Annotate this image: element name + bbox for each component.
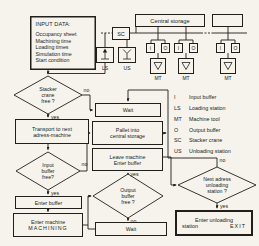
legend-desc: Input buffer — [189, 94, 216, 100]
legend-row: O Output buffer — [174, 126, 255, 137]
machine-tool-box — [178, 58, 194, 74]
input-data-box: INPUT DATA: Occupancy sheet Machining ti… — [30, 16, 96, 70]
legend: I Input buffer LS Loading station MT Mac… — [174, 94, 255, 159]
process-line: Enter buffer — [35, 199, 63, 205]
legend-desc: Output buffer — [189, 126, 220, 132]
legend-abbr: US — [174, 148, 189, 154]
loading-station-tag: LS — [96, 65, 114, 71]
legend-row: MT Machine tool — [174, 116, 255, 127]
output-buffer-box: O — [231, 43, 240, 53]
process-line: Wait — [126, 226, 136, 232]
decision-line: station ? — [190, 188, 244, 194]
process-transport-box: Transport to next adress-machine — [15, 119, 89, 144]
legend-abbr: I — [174, 94, 189, 100]
process-line: station EXIT — [177, 223, 251, 229]
label-yes-input-buffer: yes — [51, 191, 59, 196]
process-enter-buffer-box: Enter buffer — [15, 196, 82, 209]
stacker-crane-label: SC — [117, 30, 125, 36]
label-no-stacker: no — [84, 88, 90, 93]
output-buffer-box: O — [161, 43, 170, 53]
central-storage-box: Central storage — [135, 14, 205, 27]
label-no-output-buffer: no — [131, 219, 137, 224]
label-no-input-buffer: no — [82, 162, 88, 167]
stacker-crane-box: SC — [112, 27, 130, 40]
input-buffer-label: I — [178, 45, 179, 51]
machine-tool-tag: MT — [178, 75, 194, 81]
legend-desc: Loading station — [189, 105, 226, 111]
machine-tool-tag: MT — [220, 75, 236, 81]
label-yes-output-buffer: yes — [131, 172, 139, 177]
central-storage-continued-box — [212, 14, 243, 27]
flowchart-diagram: Central storage SC LS US I O MT I O MT I… — [0, 0, 259, 246]
legend-desc: Machine tool — [189, 116, 220, 122]
process-enter-unloading-exit-box: Enter unloading station EXIT — [175, 210, 253, 236]
legend-desc: Stacker crane — [189, 137, 222, 143]
legend-row: SC Stacker crane — [174, 137, 255, 148]
exit-station-label: station — [182, 223, 198, 229]
legend-desc: Unloading station — [189, 148, 231, 154]
process-line: MACHINING — [28, 225, 67, 231]
legend-abbr: SC — [174, 137, 189, 143]
decision-input-buffer-text: Input buffer free? — [26, 163, 70, 180]
machine-tool-box — [220, 58, 236, 74]
output-buffer-box: O — [189, 43, 198, 53]
label-yes-next-adress: yes — [220, 204, 228, 209]
legend-row: US Unloading station — [174, 148, 255, 159]
unloading-station-box — [118, 47, 136, 63]
decision-line: free ? — [106, 199, 150, 205]
decision-line: free? — [26, 174, 70, 180]
output-buffer-label: O — [234, 45, 238, 51]
legend-abbr: LS — [174, 105, 189, 111]
process-wait-box: Wait — [95, 103, 161, 117]
input-buffer-box: I — [216, 43, 225, 53]
input-data-title: INPUT DATA: — [36, 21, 71, 27]
exit-label: EXIT — [230, 223, 246, 229]
legend-row: I Input buffer — [174, 94, 255, 105]
process-enter-machine-box: Enter machine MACHINING — [13, 213, 83, 237]
process-pallet-into-storage-box: Pallet into central storage — [92, 121, 163, 145]
unloading-station-tag: US — [118, 65, 136, 71]
process-wait2-box: Wait — [95, 222, 167, 236]
central-storage-label: Central storage — [150, 17, 189, 23]
decision-output-buffer-text: Output buffer free ? — [106, 188, 150, 205]
diagram-stage: Central storage SC LS US I O MT I O MT I… — [0, 0, 259, 246]
input-data-item: Machining time — [36, 37, 72, 44]
legend-row: LS Loading station — [174, 105, 255, 116]
process-line: central storage — [110, 133, 145, 139]
machine-tool-tag: MT — [150, 75, 166, 81]
process-line: adress-machine — [33, 132, 71, 138]
legend-abbr: MT — [174, 116, 189, 122]
decision-stacker-crane-text: Stacker crane free ? — [26, 87, 70, 104]
output-buffer-label: O — [192, 45, 196, 51]
decision-next-adress-text: Next adress unloading station ? — [190, 177, 244, 194]
input-data-item: Start condition — [36, 57, 70, 64]
input-buffer-label: I — [150, 45, 151, 51]
input-buffer-box: I — [174, 43, 183, 53]
machine-tool-box — [150, 58, 166, 74]
input-data-item: Simulation time — [36, 51, 72, 58]
process-line: Wait — [123, 107, 133, 113]
legend-abbr: O — [174, 126, 189, 132]
input-buffer-box: I — [146, 43, 155, 53]
input-buffer-label: I — [220, 45, 221, 51]
output-buffer-label: O — [164, 45, 168, 51]
decision-line: free ? — [26, 98, 70, 104]
label-yes-stacker: yes — [51, 115, 59, 120]
loading-station-box — [96, 47, 114, 63]
process-leave-machine-box: Leave machine Enter buffer — [92, 148, 163, 171]
process-line: Enter buffer — [114, 160, 142, 166]
